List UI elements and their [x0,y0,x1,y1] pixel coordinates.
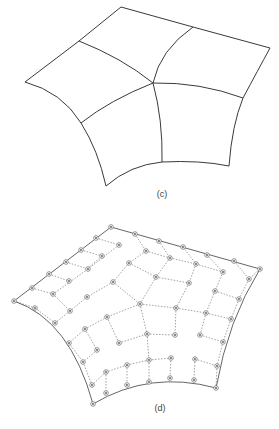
patch-edge [153,83,243,98]
net-edge [127,360,149,365]
patch-edge [193,27,270,48]
control-point-marker [109,225,114,230]
patch-edge [153,83,162,162]
control-point-marker [86,267,91,272]
control-point-marker [144,249,149,254]
net-edge [32,288,53,294]
control-point-marker [181,245,186,250]
net-edge [106,365,127,372]
control-point-marker [187,281,192,286]
control-point-marker [229,317,234,322]
net-edge [70,297,87,311]
control-point-marker [111,280,116,285]
figure-d-control-net [12,225,263,407]
net-edge [189,264,196,283]
patch-edge [81,123,106,186]
net-edge [107,317,119,343]
control-point-marker [147,380,152,385]
control-point-marker [237,297,242,302]
net-edge [175,308,176,335]
net-edge [85,317,107,329]
control-point-marker [117,243,122,248]
control-point-marker [64,260,69,265]
net-edge [35,308,55,323]
net-edge [195,359,217,366]
patch-edge [79,7,121,41]
figure-label-c: (c) [157,189,168,199]
figure-c-surface [25,7,270,186]
net-edge [215,291,239,299]
control-point-marker [157,239,162,244]
control-point-marker [154,275,159,280]
control-net-edges [14,234,260,393]
net-edge [206,291,215,313]
control-point-marker [117,341,122,346]
net-edge [49,274,69,281]
boundary-curve [93,382,216,404]
net-edge [55,311,70,323]
net-edge [113,282,140,304]
control-point-marker [174,306,179,311]
control-point-marker [85,295,90,300]
net-edge [223,319,231,342]
control-point-marker [90,383,95,388]
patch-edge [106,162,162,186]
net-edge [92,372,106,385]
net-edge [83,350,97,362]
patch-edge [153,27,193,83]
net-edge [83,362,92,385]
control-point-marker [247,277,252,282]
net-edge [113,263,129,282]
control-point-marker [215,364,220,369]
net-edge [194,359,195,380]
net-edge [147,334,149,360]
net-edge [140,277,156,304]
net-edge [119,334,147,343]
control-point-marker [168,376,173,381]
control-point-marker [138,302,143,307]
patch-edge [25,82,81,123]
control-point-marker [232,259,237,264]
control-point-marker [51,292,56,297]
patch-edge [229,98,243,166]
net-edge [53,294,70,311]
net-edge [200,335,223,342]
net-edge [231,299,239,319]
control-point-marker [79,248,84,253]
control-point-marker [198,333,203,338]
control-point-marker [104,391,109,396]
net-edge [147,334,175,335]
control-point-marker [105,315,110,320]
control-point-marker [83,327,88,332]
net-edge [69,329,85,343]
diagram-canvas [0,0,279,429]
net-edge [107,304,140,317]
control-point-marker [94,236,99,241]
control-point-marker [95,348,100,353]
patch-edge [25,41,79,82]
control-point-marker [194,262,199,267]
control-point-marker [168,256,173,261]
net-edge [176,308,206,313]
control-point-marker [30,286,35,291]
net-edge [140,304,176,308]
net-edge [140,304,147,334]
control-point-marker [214,386,219,391]
net-edge [206,313,231,319]
control-point-marker [205,253,210,258]
net-edge [149,358,171,360]
control-points [12,225,263,407]
control-point-marker [147,358,152,363]
control-point-marker [67,341,72,346]
net-edge [170,358,171,378]
patch-edge [81,83,153,123]
net-edge [129,263,156,277]
net-edge [176,283,189,308]
control-point-marker [91,402,96,407]
net-edge [239,279,249,299]
control-point-marker [213,289,218,294]
limit-surface-boundary [14,227,260,404]
control-point-marker [192,378,197,383]
net-edge [217,342,223,366]
net-edge [215,272,223,291]
